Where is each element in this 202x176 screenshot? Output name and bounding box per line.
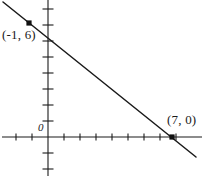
origin-label: 0	[38, 122, 44, 133]
line-graph-figure: (-1, 6) (7, 0) 0	[0, 0, 202, 176]
point-label-neg1-6: (-1, 6)	[2, 28, 36, 41]
point-marker-7-0	[169, 134, 174, 139]
point-label-7-0: (7, 0)	[167, 113, 196, 126]
point-marker-neg1-6	[26, 20, 31, 25]
